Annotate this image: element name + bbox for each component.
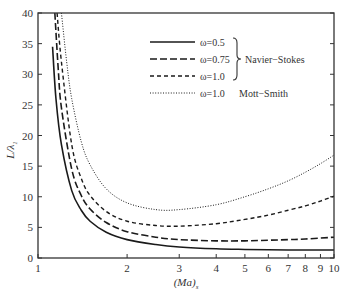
x-tick-label: 5 <box>242 262 248 274</box>
y-tick-label: 40 <box>22 7 34 19</box>
x-tick-label: 9 <box>318 262 324 274</box>
y-tick-label: 15 <box>22 160 34 172</box>
legend: ω=0.5ω=0.75ω=1.0ω=1.0Navier−StokesMott−S… <box>150 37 305 99</box>
legend-label: ω=0.75 <box>200 54 230 65</box>
series-line-dotted <box>61 13 334 210</box>
plot-series <box>53 13 334 250</box>
x-axis-title: (Ma)s <box>174 276 199 291</box>
axes: 051015202530354012345678910 <box>22 7 340 274</box>
svg-text:(Ma)s: (Ma)s <box>174 276 199 291</box>
x-tick-label: 10 <box>329 262 341 274</box>
svg-text:L/λ1: L/λ1 <box>4 141 19 159</box>
x-tick-label: 2 <box>124 262 130 274</box>
x-tick-label: 7 <box>285 262 291 274</box>
series-line-long-dash <box>55 13 334 241</box>
x-tick-label: 6 <box>266 262 272 274</box>
y-tick-label: 25 <box>22 99 34 111</box>
mott-smith-label: Mott−Smith <box>239 88 288 99</box>
y-tick-label: 0 <box>28 252 34 264</box>
x-tick-label: 3 <box>176 262 182 274</box>
chart: 051015202530354012345678910 ω=0.5ω=0.75ω… <box>0 0 348 293</box>
y-axis-title: L/λ1 <box>4 141 19 159</box>
x-tick-label: 4 <box>213 262 219 274</box>
y-tick-label: 30 <box>22 68 34 80</box>
brace-icon <box>233 38 241 80</box>
x-tick-label: 8 <box>303 262 309 274</box>
legend-label: ω=0.5 <box>200 37 225 48</box>
navier-stokes-label: Navier−Stokes <box>245 54 305 65</box>
series-line-short-dash <box>57 13 334 226</box>
y-tick-label: 5 <box>28 221 34 233</box>
plot-frame <box>38 13 334 258</box>
y-tick-label: 35 <box>22 38 34 50</box>
y-tick-label: 10 <box>22 191 34 203</box>
y-tick-label: 20 <box>22 130 34 142</box>
legend-label: ω=1.0 <box>200 88 225 99</box>
legend-label: ω=1.0 <box>200 71 225 82</box>
series-line-solid <box>53 47 334 250</box>
x-tick-label: 1 <box>35 262 41 274</box>
